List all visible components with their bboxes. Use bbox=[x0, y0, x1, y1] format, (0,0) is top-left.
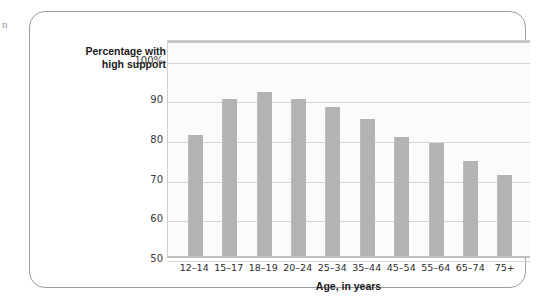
bar[interactable] bbox=[222, 99, 237, 258]
y-axis-tick-label: 60 bbox=[150, 213, 163, 224]
bar[interactable] bbox=[360, 119, 375, 258]
bar-slot bbox=[247, 43, 281, 258]
bar-slot bbox=[419, 43, 453, 258]
bar[interactable] bbox=[394, 137, 409, 258]
bar-slot bbox=[212, 43, 246, 258]
x-axis-tick-label: 65–74 bbox=[453, 262, 488, 273]
x-axis-tick-label: 12–14 bbox=[177, 262, 212, 273]
bar[interactable] bbox=[463, 161, 478, 258]
bar[interactable] bbox=[429, 143, 444, 258]
bar[interactable] bbox=[188, 135, 203, 258]
bar[interactable] bbox=[325, 107, 340, 258]
bar-slot bbox=[316, 43, 350, 258]
x-axis-tick-labels: 12–1415–1718–1920–2425–3435–4445–5455–64… bbox=[167, 262, 530, 273]
x-axis-tick-label: 25–34 bbox=[315, 262, 350, 273]
y-axis-tick-label: 100% bbox=[134, 54, 163, 65]
x-axis-baseline bbox=[168, 256, 530, 258]
y-axis-tick-label: 90 bbox=[150, 94, 163, 105]
bar-slot bbox=[178, 43, 212, 258]
figure-card: Percentage with high support 100%9080706… bbox=[29, 11, 526, 288]
figure-root: n Percentage with high support 100%90807… bbox=[0, 0, 555, 306]
x-axis-tick-label: 75+ bbox=[488, 262, 523, 273]
bar-slot bbox=[453, 43, 487, 258]
y-axis-tick-label: 80 bbox=[150, 134, 163, 145]
bar-slot bbox=[488, 43, 522, 258]
y-axis-tick-label: 50 bbox=[150, 253, 163, 264]
x-axis-tick-label: 45–54 bbox=[384, 262, 419, 273]
x-axis-tick-label: 15–17 bbox=[212, 262, 247, 273]
plot-area bbox=[167, 40, 530, 258]
x-axis-tick-label: 35–44 bbox=[350, 262, 385, 273]
bar-slot bbox=[281, 43, 315, 258]
bar[interactable] bbox=[257, 92, 272, 258]
bar-series bbox=[168, 43, 530, 258]
x-axis-tick-label: 18–19 bbox=[246, 262, 281, 273]
x-axis-tick-label: 20–24 bbox=[281, 262, 316, 273]
bar-slot bbox=[384, 43, 418, 258]
margin-artifact-glyph: n bbox=[2, 18, 8, 30]
x-axis-tick-label: 55–64 bbox=[419, 262, 454, 273]
bar[interactable] bbox=[291, 99, 306, 258]
bar-slot bbox=[350, 43, 384, 258]
y-axis-tick-label: 70 bbox=[150, 173, 163, 184]
x-axis-title: Age, in years bbox=[167, 280, 530, 292]
bar[interactable] bbox=[497, 175, 512, 258]
y-axis-tick-labels: 100%9080706050 bbox=[125, 40, 163, 258]
